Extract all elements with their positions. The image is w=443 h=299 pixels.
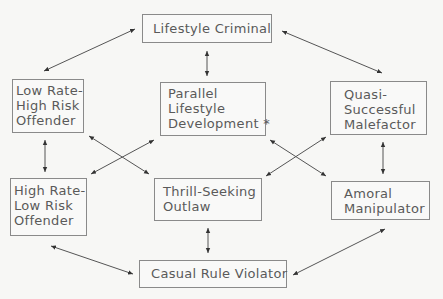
connector-arrows [0, 0, 443, 299]
node-label-line: Thrill-Seeking [163, 184, 261, 199]
node-label-line: Parallel [168, 86, 265, 101]
arrow-lifestyle-lowrate [44, 29, 135, 71]
node-label-line: Low Rate- [16, 83, 83, 98]
node-label-line: Quasi- [344, 87, 426, 102]
arrow-parallel-amoral [270, 140, 326, 176]
node-lifestyle-criminal: Lifestyle Criminal [142, 14, 272, 43]
node-label: Casual Rule Violator [151, 266, 286, 281]
node-label-line: Offender [14, 213, 86, 228]
node-parallel-lifestyle-development: Parallel Lifestyle Development * [160, 82, 266, 136]
node-label-line: High Risk [16, 98, 83, 113]
node-label-line: Development * [168, 116, 265, 131]
arrow-amoral-casual [293, 229, 385, 275]
node-quasi-successful-malefactor: Quasi- Successful Malefactor [330, 81, 427, 135]
node-label-line: High Rate- [14, 183, 86, 198]
node-label-line: Malefactor [344, 117, 426, 132]
node-label-line: Manipulator [344, 201, 429, 216]
arrow-lifestyle-quasi [282, 31, 382, 73]
arrow-lowrate-thrill [89, 136, 149, 174]
node-casual-rule-violator: Casual Rule Violator [139, 260, 287, 288]
node-label: Lifestyle Criminal [153, 21, 271, 36]
node-high-rate-low-risk-offender: High Rate- Low Risk Offender [10, 178, 87, 236]
arrow-parallel-highrate [91, 140, 154, 174]
arrow-highrate-casual [51, 246, 133, 274]
node-thrill-seeking-outlaw: Thrill-Seeking Outlaw [154, 178, 262, 221]
node-label-line: Offender [16, 113, 83, 128]
node-label-line: Low Risk [14, 198, 86, 213]
criminal-typology-diagram: Lifestyle Criminal Low Rate- High Risk O… [0, 0, 443, 299]
node-label-line: Amoral [344, 186, 429, 201]
node-label-line: Outlaw [163, 199, 261, 214]
node-amoral-manipulator: Amoral Manipulator [331, 181, 430, 220]
node-low-rate-high-risk-offender: Low Rate- High Risk Offender [12, 79, 84, 133]
node-label-line: Lifestyle [168, 101, 265, 116]
node-label-line: Successful [344, 102, 426, 117]
